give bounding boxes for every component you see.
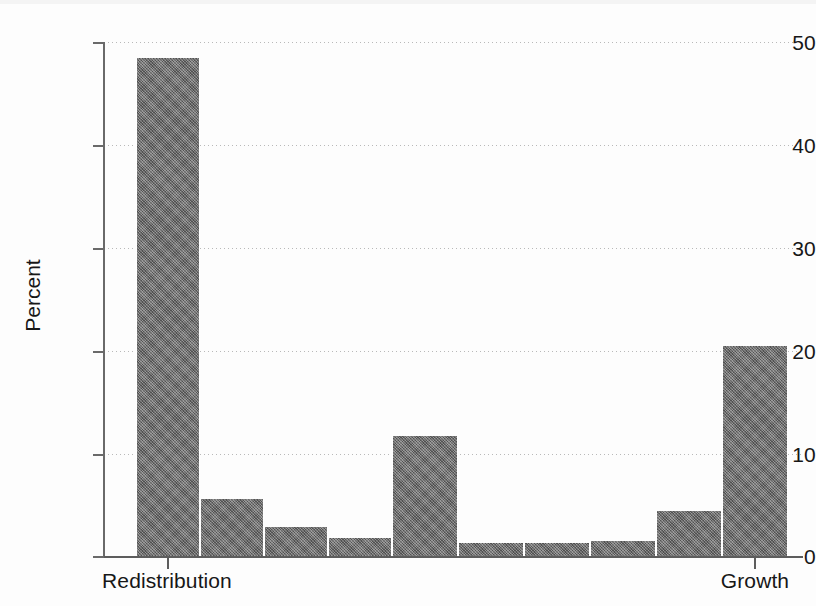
bar-5	[392, 436, 458, 556]
y-tick-label-30: 30	[760, 238, 816, 259]
y-tick-mark-40	[93, 145, 104, 147]
bar-6	[458, 543, 524, 556]
y-tick-mark-0	[93, 556, 104, 558]
x-tick-label-growth: Growth	[690, 569, 816, 593]
bar-9	[656, 511, 722, 556]
y-tick-mark-30	[93, 248, 104, 250]
gridline-30	[104, 248, 802, 249]
bar-3	[264, 527, 328, 556]
bar-2	[200, 499, 264, 556]
figure-container: 50 40 30 20 10 0 Percent Redistribution …	[0, 0, 816, 606]
gridline-40	[104, 145, 802, 146]
gridline-20	[104, 351, 802, 352]
bar-8	[590, 541, 656, 556]
bar-10	[722, 346, 788, 556]
y-axis-title: Percent	[22, 216, 43, 376]
bar-4	[328, 538, 392, 556]
x-axis-line	[103, 556, 803, 558]
y-tick-mark-50	[93, 42, 104, 44]
y-tick-label-40: 40	[760, 135, 816, 156]
y-axis-line	[103, 42, 105, 557]
y-tick-label-50: 50	[760, 32, 816, 53]
bar-1	[136, 58, 200, 556]
x-tick-label-redistribution: Redistribution	[80, 569, 254, 593]
y-tick-mark-20	[93, 351, 104, 353]
x-tick-mark-redistribution	[167, 558, 169, 569]
y-tick-mark-10	[93, 454, 104, 456]
bar-chart-plot: 50 40 30 20 10 0 Percent Redistribution …	[0, 0, 816, 606]
bar-7	[524, 543, 590, 556]
gridline-50	[104, 42, 802, 43]
x-tick-mark-growth	[754, 558, 756, 569]
